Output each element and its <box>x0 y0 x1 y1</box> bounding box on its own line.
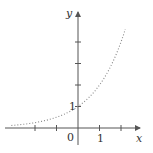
exponential-graph: y x 0 1 1 <box>0 0 153 153</box>
y-axis-label: y <box>65 7 73 20</box>
x-tick-label-1: 1 <box>97 132 104 145</box>
x-axis-label: x <box>136 132 143 145</box>
y-tick-label-1: 1 <box>69 100 76 113</box>
origin-label: 0 <box>67 131 74 144</box>
